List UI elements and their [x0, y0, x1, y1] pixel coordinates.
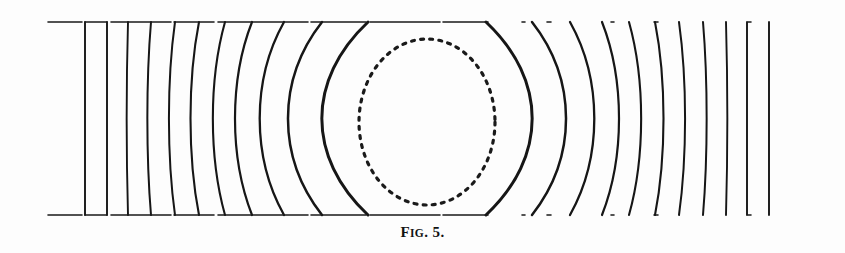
figure-container: FIG. 5. [0, 0, 845, 253]
flux-line-R3 [726, 22, 727, 215]
flux-line-L7 [213, 22, 225, 215]
flux-line-L3 [127, 22, 128, 215]
caption-initial: F [400, 224, 410, 240]
flux-line-L6 [190, 22, 199, 215]
flux-line-L8 [235, 22, 252, 215]
flux-line-R9 [570, 22, 594, 215]
flux-line-R4 [703, 22, 707, 215]
caption-smallcaps: IG [410, 227, 424, 239]
flux-line-R8 [602, 22, 619, 215]
capacitor-plates-group [48, 22, 805, 215]
flux-line-R5 [679, 22, 685, 215]
flux-line-L9 [260, 22, 284, 215]
flux-line-R6 [655, 22, 664, 215]
flux-line-L11 [322, 22, 368, 215]
flux-line-R7 [629, 22, 641, 215]
figure-caption: FIG. 5. [0, 224, 845, 241]
flux-line-L10 [288, 22, 322, 215]
flux-line-R10 [532, 22, 566, 215]
flux-lines-group [85, 22, 769, 215]
field-line-diagram [0, 0, 845, 253]
flux-line-L5 [169, 22, 175, 215]
flux-line-R11 [486, 22, 532, 215]
cavity-dotted-circle [359, 39, 495, 205]
caption-number: . 5. [424, 224, 444, 240]
flux-line-L4 [147, 22, 151, 215]
